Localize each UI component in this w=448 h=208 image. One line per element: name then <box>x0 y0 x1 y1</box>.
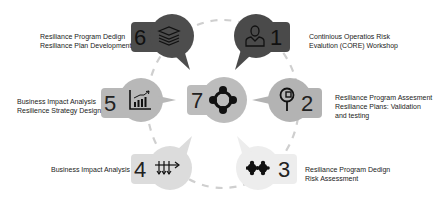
step-2-tail <box>252 96 270 104</box>
cycle-icon <box>209 86 237 114</box>
step-5-tail <box>158 96 176 104</box>
step-6-label: Resiliance Program Dedign Resiliance Pla… <box>40 32 131 50</box>
person-icon <box>244 24 266 48</box>
chart-icon <box>128 89 152 111</box>
step-4-number: 4 <box>134 159 146 181</box>
step-3-label: Resiliance Program Dedign Risk Assessmen… <box>305 165 390 183</box>
step-7-number: 7 <box>191 90 203 112</box>
stack-icon <box>157 26 181 46</box>
arrows-icon <box>154 160 182 176</box>
step-3-number: 3 <box>278 159 290 181</box>
magnifier-icon <box>278 86 298 112</box>
step-6-number: 6 <box>134 27 146 49</box>
step-5-number: 5 <box>104 93 116 115</box>
step-4-label: Business Impact Analysis <box>51 165 130 174</box>
step-2-label: Resiliance Program Assesment Resiliance … <box>335 93 432 120</box>
step-2-number: 2 <box>301 93 313 115</box>
step-5-label: Business Impact Analysis Resilience Stra… <box>17 97 101 115</box>
step-1-label: Continious Operatios Risk Evalution (COR… <box>309 32 398 50</box>
puzzle-icon <box>246 160 270 176</box>
step-1-number: 1 <box>270 27 282 49</box>
